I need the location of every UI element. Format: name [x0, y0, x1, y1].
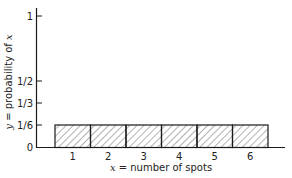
x-tick-label: 3: [141, 151, 147, 162]
y-tick-label: 0: [27, 142, 33, 153]
x-axis-title: x = number of spots: [110, 162, 212, 173]
y-tick-label: 1/6: [17, 120, 33, 131]
x-tick-label: 1: [70, 151, 76, 162]
y-axis-title: y = probability of x: [3, 34, 14, 131]
y-axis-ticks: 01/61/31/21: [17, 11, 42, 154]
bar-5: [197, 125, 233, 148]
y-tick-label: 1/3: [17, 98, 33, 109]
bars: [55, 125, 268, 148]
probability-bar-chart: 01/61/31/21 123456 x = number of spots y…: [0, 0, 292, 178]
bar-2: [91, 125, 127, 148]
x-tick-label: 4: [176, 151, 182, 162]
x-tick-label: 6: [247, 151, 253, 162]
bar-1: [55, 125, 91, 148]
y-tick-label: 1: [27, 11, 33, 22]
bar-6: [233, 125, 269, 148]
bar-4: [162, 125, 198, 148]
y-tick-label: 1/2: [17, 76, 33, 87]
x-axis-tick-labels: 123456: [70, 151, 254, 162]
bar-3: [126, 125, 162, 148]
x-tick-label: 5: [212, 151, 218, 162]
x-tick-label: 2: [105, 151, 111, 162]
